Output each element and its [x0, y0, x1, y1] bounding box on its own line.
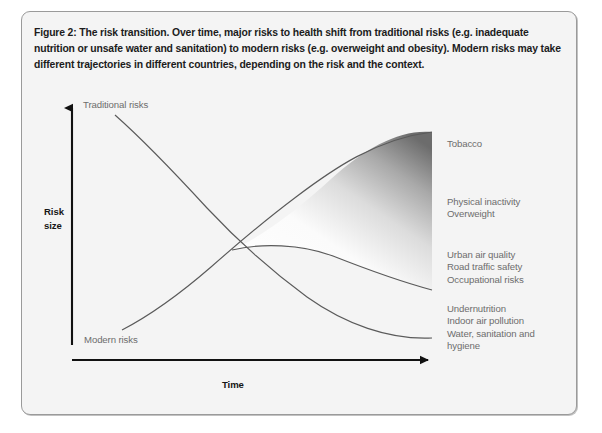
label-traditional-risks: Traditional risks — [83, 99, 148, 111]
label-modern-risks: Modern risks — [84, 334, 138, 346]
y-axis-title-line2: size — [44, 219, 78, 233]
figure-page: Figure 2: The risk transition. Over time… — [0, 0, 602, 433]
annotation-water-sanitation: Water, sanitation and — [447, 328, 535, 340]
shaded-fan-region — [232, 132, 432, 290]
annotation-group-urban: Urban air quality Road traffic safety Oc… — [447, 249, 524, 286]
x-axis-title: Time — [222, 379, 244, 391]
annotation-hygiene: hygiene — [447, 340, 535, 352]
annotation-indoor-air-pollution: Indoor air pollution — [447, 315, 535, 327]
y-axis-title: Risk size — [44, 205, 78, 232]
annotation-group-physical: Physical inactivity Overweight — [447, 196, 520, 221]
annotation-overweight: Overweight — [447, 208, 520, 220]
annotation-occupational-risks: Occupational risks — [447, 274, 524, 286]
y-axis-title-line1: Risk — [44, 205, 78, 219]
annotation-group-undernutrition: Undernutrition Indoor air pollution Wate… — [447, 303, 535, 353]
annotation-undernutrition: Undernutrition — [447, 303, 535, 315]
annotation-road-traffic-safety: Road traffic safety — [447, 261, 524, 273]
annotation-urban-air-quality: Urban air quality — [447, 249, 524, 261]
annotation-tobacco: Tobacco — [447, 138, 482, 150]
annotation-physical-inactivity: Physical inactivity — [447, 196, 520, 208]
annotation-group-tobacco: Tobacco — [447, 138, 482, 150]
